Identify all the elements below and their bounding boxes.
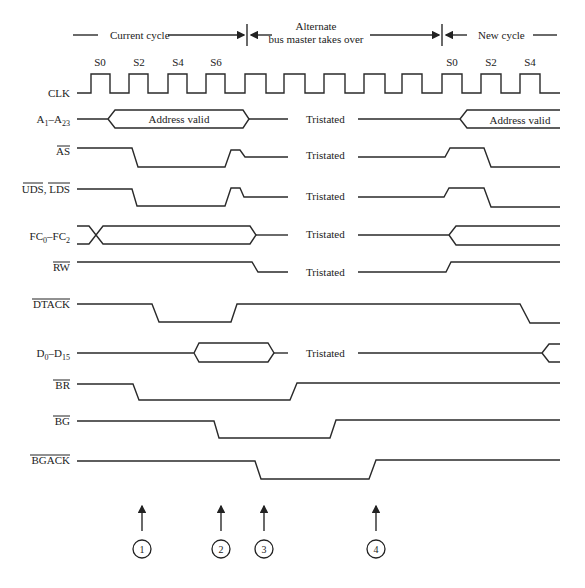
signal-label-bgack: BGACK [31,454,70,466]
tristated-text: Tristated [306,228,345,240]
signal-label-clk: CLK [48,87,70,99]
signal-data: D0–D15 Tristated [37,343,560,362]
signal-label-bg: BG [55,415,70,427]
event-marker-3: 3 [255,506,273,558]
tristated-text: Tristated [306,266,345,278]
current-cycle-label: Current cycle [110,29,170,41]
signal-bgack: BGACK [30,454,560,479]
signal-address: A1–A23 Address valid Tristated Address v… [37,110,560,128]
event-marker-2: 2 [212,506,230,558]
state-label: S4 [524,56,536,68]
signal-dtack: DTACK [32,298,560,323]
marker-number: 2 [219,544,224,555]
marker-number: 1 [140,544,145,555]
signal-as: AS Tristated [56,145,560,167]
signal-label-uds-lds: UDS, LDS [22,183,70,195]
state-label: S2 [485,56,497,68]
signal-label-as: AS [56,145,70,157]
signal-br: BR [53,379,560,400]
marker-number: 3 [262,544,267,555]
event-markers: 1234 [133,506,385,558]
event-marker-1: 1 [133,506,151,558]
cycle-header: Current cycle Alternate bus master takes… [73,20,557,46]
tristated-text: Tristated [306,113,345,125]
signal-label-rw: RW [53,261,71,273]
alternate-label-line2: bus master takes over [269,33,364,45]
marker-number: 4 [374,544,379,555]
signal-label-data: D0–D15 [37,347,70,362]
signal-bg: BG [53,415,560,438]
signal-uds-lds: UDS, LDS Tristated [22,183,560,207]
event-marker-4: 4 [367,506,385,558]
tristated-text: Tristated [306,190,345,202]
address-valid-text-new-cycle: Address valid [490,114,551,126]
address-valid-text: Address valid [149,113,210,125]
state-label: S0 [94,56,106,68]
state-label: S6 [210,56,222,68]
signal-label-br: BR [55,379,70,391]
state-label: S4 [172,56,184,68]
bus-arbitration-timing-diagram: Current cycle Alternate bus master takes… [0,0,585,588]
signal-fc: FC0–FC2 Tristated [30,226,560,245]
signal-clk: CLK [48,74,560,99]
alternate-label-line1: Alternate [296,20,337,32]
clock-state-labels: S0S2S4S6S0S2S4 [94,56,536,68]
signal-label-fc: FC0–FC2 [30,230,70,245]
tristated-text: Tristated [306,149,345,161]
state-label: S0 [446,56,458,68]
tristated-text: Tristated [306,347,345,359]
signal-rw: RW Tristated [53,261,560,278]
new-cycle-label: New cycle [478,29,525,41]
signal-label-dtack: DTACK [33,298,70,310]
signal-label-address: A1–A23 [37,113,70,128]
state-label: S2 [133,56,145,68]
